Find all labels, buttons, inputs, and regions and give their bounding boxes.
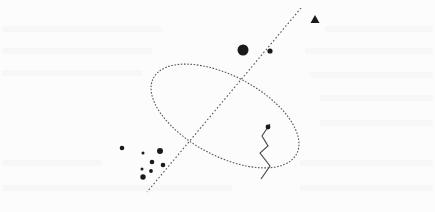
cluster-dot <box>149 169 153 173</box>
diagram-svg <box>0 0 435 212</box>
cluster-dot <box>141 168 144 171</box>
cluster-dot <box>150 160 155 165</box>
cluster-dot <box>157 148 163 154</box>
dotted-ellipse <box>135 43 316 190</box>
cluster-dot <box>120 146 125 151</box>
cluster-dot <box>142 152 145 155</box>
cluster-dot <box>161 163 166 168</box>
cluster-dot <box>140 174 145 179</box>
diagram-canvas <box>0 0 435 212</box>
triangle-marker <box>311 15 320 23</box>
small-dot <box>267 48 272 53</box>
dotted-axis-line <box>147 8 301 192</box>
zigzag-path <box>260 124 270 179</box>
zigzag-end-dot <box>266 125 271 130</box>
large-dot <box>238 45 249 56</box>
